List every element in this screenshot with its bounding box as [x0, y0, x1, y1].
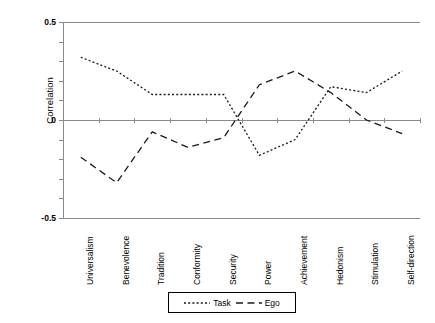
x-tick-mark	[242, 118, 243, 123]
y-tick-mark	[59, 140, 63, 141]
x-axis-label-achievement: Achievement	[299, 236, 309, 285]
x-tick-mark	[384, 118, 385, 123]
y-axis-title: Correlation	[44, 46, 55, 156]
y-tick-mark	[59, 61, 63, 62]
y-tick-mark	[59, 218, 63, 219]
x-tick-mark	[63, 118, 64, 123]
y-tick-mark	[59, 100, 63, 101]
x-tick-mark	[277, 118, 278, 123]
x-axis-label-conformity: Conformity	[192, 244, 202, 285]
y-tick-label-bottom: -0.5	[26, 213, 56, 223]
y-tick-mark	[59, 81, 63, 82]
legend-item-task: Task	[184, 298, 230, 308]
x-axis-label-self-direction: Self-direction	[406, 235, 416, 285]
x-axis-label-tradition: Tradition	[156, 252, 166, 285]
x-axis-label-stimulation: Stimulation	[370, 243, 380, 285]
y-tick-mark	[59, 179, 63, 180]
x-axis-label-universalism: Universalism	[85, 236, 95, 285]
legend-swatch-task-icon	[184, 299, 210, 307]
plot-bottom-border	[63, 218, 420, 219]
x-tick-mark	[206, 118, 207, 123]
x-tick-mark	[313, 118, 314, 123]
legend-label-ego: Ego	[265, 298, 280, 308]
legend-item-ego: Ego	[236, 298, 280, 308]
x-tick-mark	[170, 118, 171, 123]
x-axis-label-power: Power	[263, 261, 273, 285]
x-tick-mark	[420, 118, 421, 123]
legend-label-task: Task	[213, 298, 230, 308]
series-line-ego	[81, 71, 402, 183]
y-tick-mark	[59, 42, 63, 43]
x-axis-label-hedonism: Hedonism	[335, 247, 345, 285]
correlation-line-chart: 0.5 0 -0.5 Correlation UniversalismBenev…	[0, 0, 435, 323]
x-tick-mark	[349, 118, 350, 123]
y-tick-mark	[59, 22, 63, 23]
x-axis-label-security: Security	[228, 254, 238, 285]
y-tick-label-top: 0.5	[26, 17, 56, 27]
y-tick-mark	[59, 198, 63, 199]
legend-swatch-ego-icon	[236, 299, 262, 307]
y-tick-mark	[59, 159, 63, 160]
legend: Task Ego	[168, 292, 296, 313]
x-tick-mark	[99, 118, 100, 123]
x-tick-mark	[134, 118, 135, 123]
plot-top-border	[63, 22, 420, 23]
x-axis-label-benevolence: Benevolence	[121, 236, 131, 285]
series-line-task	[81, 57, 402, 155]
